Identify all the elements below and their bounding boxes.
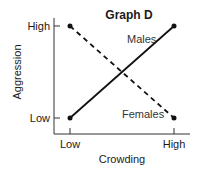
x-axis-label: Crowding: [99, 153, 145, 165]
series-label-males: Males: [127, 33, 157, 45]
y-tick-label: High: [27, 20, 50, 32]
data-point-males: [172, 24, 177, 29]
series-label-females: Females: [122, 108, 165, 120]
chart: Graph D LowHigh LowHigh Aggression Crowd…: [0, 0, 199, 172]
chart-title: Graph D: [105, 8, 153, 22]
data-point-females: [172, 116, 177, 121]
y-axis-label: Aggression: [11, 44, 23, 99]
x-tick-label: High: [163, 138, 186, 150]
data-point-females: [68, 24, 73, 29]
y-tick-label: Low: [30, 112, 50, 124]
x-tick-label: Low: [60, 138, 80, 150]
data-point-males: [68, 116, 73, 121]
